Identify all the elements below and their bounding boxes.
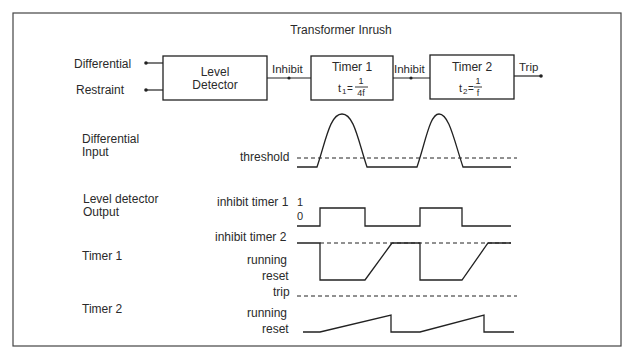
junction-dot-icon (409, 76, 412, 79)
level-detector-label: Detector (192, 78, 237, 92)
svg-text:reset: reset (262, 269, 289, 283)
signal-timer-1: Timer 1 inhibit timer 2 running reset (82, 230, 511, 283)
svg-text:running: running (247, 306, 287, 320)
inhibit-label-1: Inhibit (272, 63, 303, 75)
junction-dot-icon (287, 76, 290, 79)
svg-text:trip: trip (273, 285, 290, 299)
timer-1-label: Timer 1 (332, 60, 373, 74)
svg-text:=: = (347, 83, 353, 94)
svg-text:Level detector: Level detector (83, 192, 158, 206)
svg-text:0: 0 (297, 210, 303, 222)
svg-text:1: 1 (475, 76, 480, 86)
timer-2-label: Timer 2 (452, 60, 493, 74)
svg-text:=: = (468, 83, 474, 94)
signal-level-detector-output: Level detector Output inhibit timer 1 1 … (83, 192, 511, 226)
transformer-inrush-diagram: Transformer Inrush Differential Restrain… (0, 0, 639, 359)
block-diagram: Differential Restraint Level Detector In… (74, 55, 543, 100)
svg-text:t: t (459, 82, 462, 94)
signal-timer-2: Timer 2 trip running reset (82, 285, 517, 336)
svg-text:inhibit timer 1: inhibit timer 1 (217, 195, 289, 209)
diagram-title: Transformer Inrush (290, 23, 392, 37)
svg-text:4f: 4f (357, 88, 365, 98)
svg-text:Timer 2: Timer 2 (82, 302, 123, 316)
input-label-differential: Differential (74, 57, 131, 71)
svg-text:Differential: Differential (82, 132, 139, 146)
threshold-label: threshold (240, 150, 289, 164)
svg-text:f: f (477, 88, 480, 98)
svg-text:reset: reset (262, 322, 289, 336)
inhibit-label-2: Inhibit (394, 63, 425, 75)
svg-text:Output: Output (83, 205, 120, 219)
svg-text:t: t (338, 82, 341, 94)
svg-text:1: 1 (297, 196, 303, 208)
input-label-restraint: Restraint (76, 83, 125, 97)
svg-text:1: 1 (358, 76, 363, 86)
signal-differential-input: Differential Input threshold (82, 114, 517, 167)
trip-label: Trip (519, 61, 538, 73)
svg-text:inhibit timer 2: inhibit timer 2 (215, 230, 287, 244)
timer-2-formula: t 2 = 1 f (459, 76, 482, 98)
svg-text:Timer 1: Timer 1 (82, 249, 123, 263)
level-detector-label: Level (201, 65, 230, 79)
svg-text:running: running (247, 253, 287, 267)
timer-1-formula: t 1 = 1 4f (338, 76, 368, 98)
svg-text:Input: Input (82, 145, 109, 159)
output-terminal-icon (539, 74, 543, 78)
